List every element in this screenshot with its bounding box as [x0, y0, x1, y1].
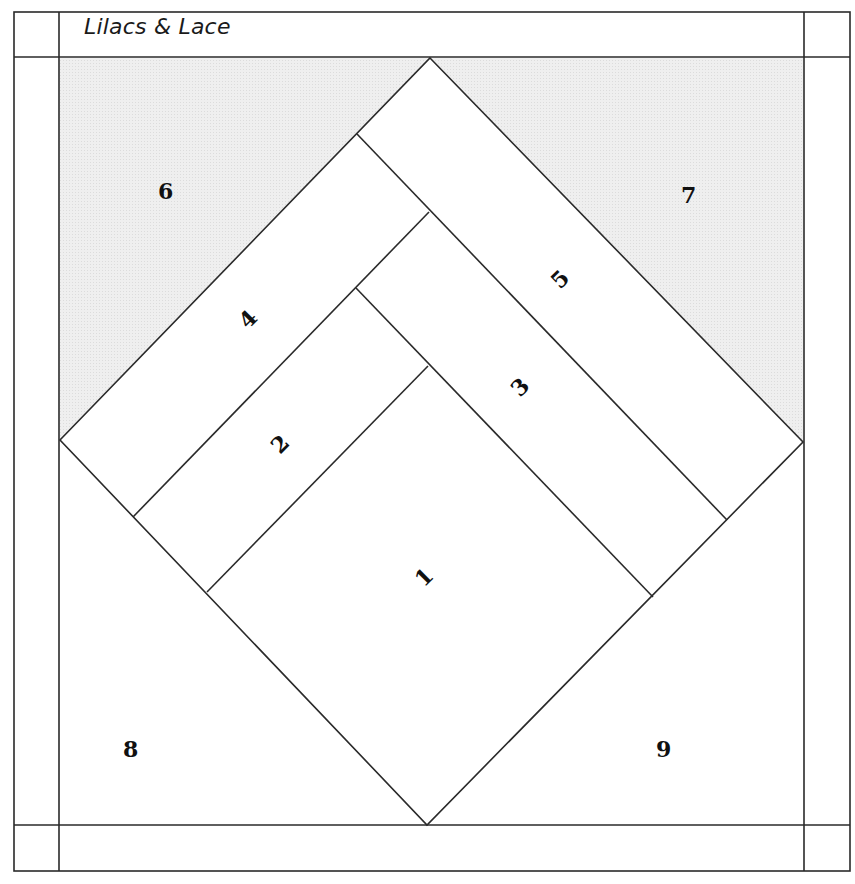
piece-label-6: 6 [158, 178, 173, 204]
piece-label-4: 4 [233, 304, 262, 333]
piece-label-9: 9 [656, 736, 671, 762]
quilt-block-diagram: 6 7 8 9 1 2 3 4 5 [0, 0, 855, 884]
piece-label-8: 8 [123, 736, 138, 762]
piece-label-2: 2 [265, 429, 294, 458]
piece-label-3: 3 [505, 372, 534, 401]
seam-3 [356, 288, 653, 597]
seam-2 [207, 366, 428, 592]
piece-label-7: 7 [681, 182, 696, 208]
piece-label-1: 1 [409, 562, 438, 591]
piece-label-5: 5 [545, 264, 574, 293]
